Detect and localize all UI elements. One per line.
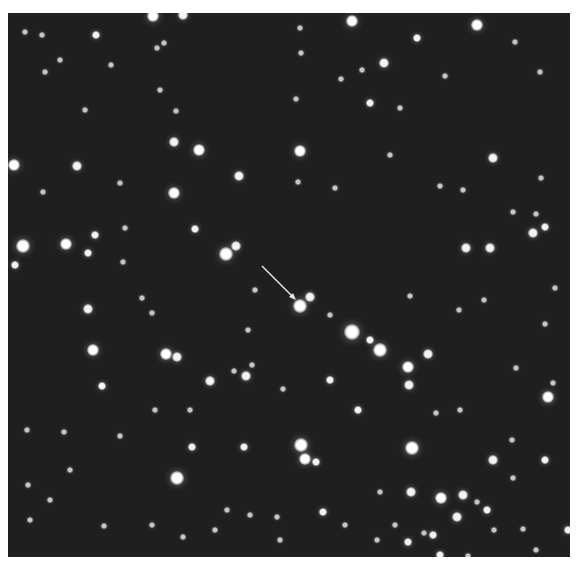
arrow-pointer-icon: [8, 13, 570, 557]
star-field-image: [8, 13, 570, 557]
